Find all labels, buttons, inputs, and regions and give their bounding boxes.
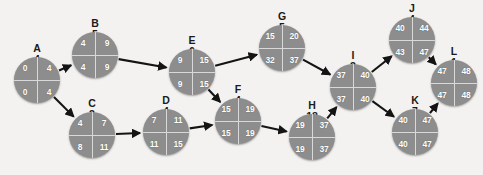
node-b[interactable]: 4949 — [72, 32, 118, 78]
late-start-value: 37 — [330, 88, 352, 110]
edge-e-to-g — [215, 55, 257, 66]
early-finish-value: 40 — [354, 64, 376, 86]
late-start-value: 43 — [389, 41, 411, 63]
early-finish-value: 37 — [313, 114, 335, 136]
late-finish-value: 15 — [193, 73, 215, 95]
edge-d-to-f — [190, 125, 213, 128]
edge-a-to-b — [59, 65, 71, 70]
early-start-value: 7 — [143, 109, 165, 131]
early-finish-value: 7 — [93, 112, 115, 134]
early-finish-value: 20 — [283, 25, 305, 47]
late-finish-value: 47 — [416, 133, 438, 155]
early-start-value: 47 — [431, 60, 453, 82]
edge-f-to-h — [261, 126, 286, 131]
early-start-value: 37 — [330, 64, 352, 86]
node-e[interactable]: 915915 — [169, 49, 215, 95]
late-start-value: 8 — [69, 136, 91, 158]
early-start-value: 40 — [389, 17, 411, 39]
early-finish-value: 15 — [193, 49, 215, 71]
late-finish-value: 37 — [283, 49, 305, 71]
node-l[interactable]: 47484748 — [431, 60, 477, 106]
early-start-value: 9 — [169, 49, 191, 71]
late-finish-value: 15 — [167, 133, 189, 155]
edge-c-to-d — [116, 133, 140, 134]
early-start-value: 19 — [289, 114, 311, 136]
node-i[interactable]: 37403740 — [330, 64, 376, 110]
late-start-value: 9 — [169, 73, 191, 95]
early-finish-value: 4 — [38, 57, 60, 79]
early-start-value: 15 — [259, 25, 281, 47]
late-start-value: 15 — [215, 122, 237, 144]
late-start-value: 19 — [289, 138, 311, 160]
early-start-value: 4 — [72, 32, 94, 54]
early-start-value: 15 — [215, 98, 237, 120]
node-c[interactable]: 47811 — [69, 112, 115, 158]
node-d[interactable]: 7111115 — [143, 109, 189, 155]
early-start-value: 0 — [14, 57, 36, 79]
late-start-value: 47 — [431, 84, 453, 106]
network-diagram-canvas: A40404B54949C347811D47111115E6915915F415… — [0, 0, 483, 175]
late-start-value: 11 — [143, 133, 165, 155]
early-finish-value: 9 — [96, 32, 118, 54]
late-finish-value: 4 — [38, 81, 60, 103]
node-g[interactable]: 15203237 — [259, 25, 305, 71]
late-start-value: 4 — [72, 56, 94, 78]
early-start-value: 4 — [69, 112, 91, 134]
late-start-value: 0 — [14, 81, 36, 103]
node-f[interactable]: 15191519 — [215, 98, 261, 144]
late-finish-value: 11 — [93, 136, 115, 158]
node-h[interactable]: 19371937 — [289, 114, 335, 160]
late-finish-value: 37 — [313, 138, 335, 160]
edge-b-to-e — [119, 59, 167, 67]
node-j[interactable]: 40444347 — [389, 17, 435, 63]
early-start-value: 40 — [392, 109, 414, 131]
late-finish-value: 9 — [96, 56, 118, 78]
node-k[interactable]: 40474047 — [392, 109, 438, 155]
late-finish-value: 40 — [354, 88, 376, 110]
late-finish-value: 48 — [455, 84, 477, 106]
late-start-value: 32 — [259, 49, 281, 71]
early-finish-value: 19 — [239, 98, 261, 120]
late-finish-value: 19 — [239, 122, 261, 144]
late-start-value: 40 — [392, 133, 414, 155]
early-finish-value: 47 — [416, 109, 438, 131]
edge-g-to-i — [303, 60, 330, 75]
early-finish-value: 11 — [167, 109, 189, 131]
early-finish-value: 44 — [413, 17, 435, 39]
node-a[interactable]: 0404 — [14, 57, 60, 103]
early-finish-value: 48 — [455, 60, 477, 82]
